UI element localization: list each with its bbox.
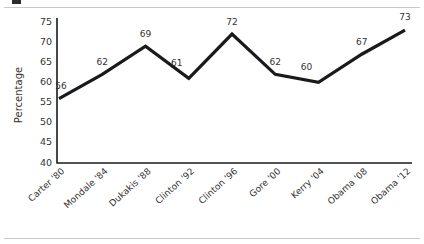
x-axis-tick-label: Clinton '96 bbox=[197, 166, 240, 206]
y-axis-tick-label: 50 bbox=[40, 116, 52, 127]
y-axis-title-group: Percentage bbox=[13, 67, 24, 123]
data-point-label: 67 bbox=[356, 37, 367, 47]
y-axis-tick-label: 70 bbox=[40, 36, 52, 47]
x-axis-tick-label: Gore '00 bbox=[247, 166, 282, 199]
x-axis-tick-label: Carter '80 bbox=[26, 166, 66, 204]
data-point-label: 62 bbox=[97, 57, 108, 67]
y-axis-tick-label: 60 bbox=[40, 76, 52, 87]
y-axis-tick-labels: 4045505560657075 bbox=[40, 16, 52, 168]
data-point-label: 62 bbox=[270, 57, 281, 67]
x-axis-tick-label: Obama '12 bbox=[369, 166, 412, 206]
x-axis-tick-label: Dukakis '88 bbox=[107, 166, 153, 209]
x-axis-tick-label: Clinton '92 bbox=[153, 166, 196, 206]
y-axis-tick-label: 40 bbox=[40, 157, 52, 168]
plot-area: Percentage 4045505560657075 566269617262… bbox=[0, 0, 424, 244]
x-axis-tick-label: Mondale '84 bbox=[62, 166, 110, 210]
x-axis-tick-labels: Carter '80Mondale '84Dukakis '88Clinton … bbox=[26, 166, 412, 210]
data-point-label: 73 bbox=[399, 12, 410, 22]
data-point-label: 56 bbox=[55, 81, 67, 91]
line-chart-svg: Percentage 4045505560657075 566269617262… bbox=[0, 0, 424, 244]
x-axis-tick-label: Obama '08 bbox=[326, 166, 370, 207]
data-point-label: 69 bbox=[140, 29, 152, 39]
y-axis-tick-label: 45 bbox=[40, 136, 52, 147]
y-axis-title: Percentage bbox=[13, 67, 24, 123]
data-point-label: 61 bbox=[171, 58, 182, 68]
data-point-label: 72 bbox=[226, 17, 237, 27]
data-point-labels: 566269617262606773 bbox=[55, 12, 410, 90]
y-axis-tick-label: 65 bbox=[40, 56, 52, 67]
chart-figure: Percentage 4045505560657075 566269617262… bbox=[0, 0, 424, 244]
x-axis-tick-label: Kerry '04 bbox=[289, 166, 326, 201]
y-axis-tick-label: 75 bbox=[40, 16, 52, 27]
y-axis-tick-label: 55 bbox=[40, 96, 52, 107]
data-series-line bbox=[59, 30, 405, 98]
data-point-label: 60 bbox=[301, 62, 313, 72]
